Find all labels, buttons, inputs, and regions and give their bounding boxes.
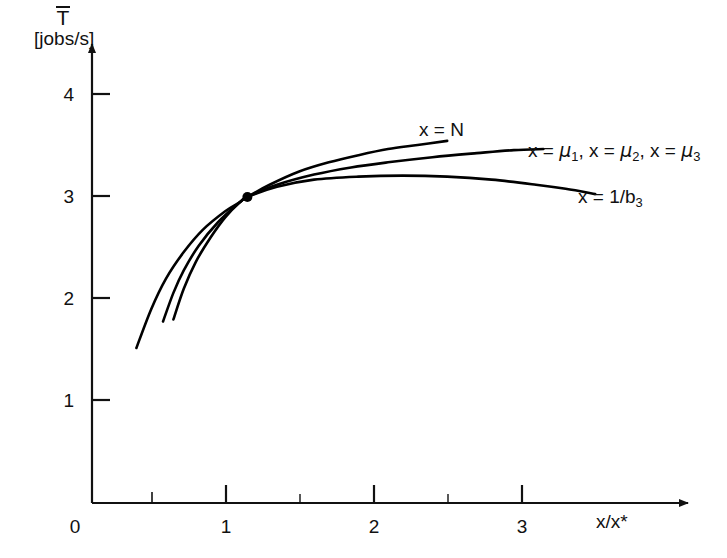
mu-sub-3: 3	[693, 149, 700, 164]
b3-lhs: x = 1/b	[578, 186, 636, 207]
optimum-point-marker	[242, 192, 252, 202]
x-tick-label-3: 3	[505, 516, 539, 538]
mu-lhs-1: x =	[528, 140, 559, 161]
mu-sub-2: 2	[632, 149, 639, 164]
mu-sep-2: ,	[639, 140, 650, 161]
mu-symbol-1: μ	[559, 139, 571, 161]
mu-sep-1: ,	[578, 140, 589, 161]
x-axis-title: x/x*	[596, 512, 628, 532]
b3-sub: 3	[636, 195, 643, 210]
y-tick-label-3: 3	[40, 186, 74, 208]
x-axis-ticks	[152, 485, 522, 503]
y-axis-symbol: T	[34, 6, 92, 29]
curve-x-equals-mu	[163, 149, 543, 321]
curve-x-equals-N	[173, 141, 447, 320]
mu-lhs-2: x =	[589, 140, 620, 161]
chart-figure: T [jobs/s] x/x* 4 3 2 1 0 1 2 3 x = N x …	[0, 0, 727, 558]
x-tick-label-2: 2	[357, 516, 391, 538]
mu-symbol-3: μ	[681, 139, 693, 161]
curve-label-x-equals-one-over-b3: x = 1/b3	[578, 186, 643, 208]
x-tick-label-0: 0	[58, 516, 92, 538]
y-axis-ticks	[92, 94, 110, 400]
plot-area	[0, 0, 727, 558]
mu-sub-1: 1	[571, 149, 578, 164]
curve-label-x-equals-N: x = N	[419, 119, 464, 141]
y-axis-title: T [jobs/s]	[34, 6, 94, 49]
x-tick-label-1: 1	[209, 516, 243, 538]
curves-group	[136, 141, 595, 348]
y-tick-label-2: 2	[40, 288, 74, 310]
y-axis-unit: [jobs/s]	[34, 29, 94, 49]
y-tick-label-4: 4	[40, 84, 74, 106]
mu-symbol-2: μ	[620, 139, 632, 161]
curve-label-x-equals-mu: x = μ1, x = μ2, x = μ3	[528, 139, 700, 162]
curve-x-equals-one-over-b3	[136, 176, 595, 348]
y-tick-label-1: 1	[40, 390, 74, 412]
curve-label-n-text: x = N	[419, 119, 464, 140]
mu-lhs-3: x =	[650, 140, 681, 161]
